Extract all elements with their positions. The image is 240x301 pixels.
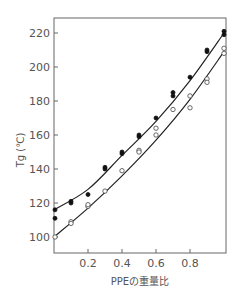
open-data-point <box>154 133 158 137</box>
open-data-point <box>171 107 175 111</box>
open-data-point <box>120 169 124 173</box>
open-data-point <box>137 150 141 154</box>
open-data-point <box>222 51 226 55</box>
filled-data-point <box>188 75 192 79</box>
y-tick-label: 120 <box>29 197 50 210</box>
x-tick-label: 0.8 <box>181 257 199 270</box>
open-data-point <box>222 46 226 50</box>
filled-data-point <box>120 150 124 154</box>
filled-data-point <box>103 165 107 169</box>
x-tick-label: 0.2 <box>79 257 97 270</box>
open-data-point <box>103 189 107 193</box>
chart-canvas: 100120140160180200220 0.20.40.60.8 Tg (℃… <box>0 0 240 301</box>
y-tick-label: 160 <box>29 129 50 142</box>
open-data-point <box>188 94 192 98</box>
filled-data-point <box>86 193 90 197</box>
open-data-point <box>86 203 90 207</box>
y-axis-label: Tg (℃) <box>15 133 26 169</box>
filled-data-point <box>154 116 158 120</box>
filled-data-point <box>171 91 175 95</box>
y-tick-label: 140 <box>29 163 50 176</box>
y-tick-label: 100 <box>29 231 50 244</box>
filled-data-point <box>222 29 226 33</box>
filled-data-point <box>205 48 209 52</box>
filled-data-point <box>69 201 73 205</box>
open-data-point <box>53 235 57 239</box>
filled-data-point <box>53 208 57 212</box>
fit-curve <box>54 33 224 210</box>
x-tick-label: 0.6 <box>147 257 165 270</box>
y-tick-label: 180 <box>29 95 50 108</box>
open-data-point <box>154 126 158 130</box>
fit-curve <box>54 52 224 237</box>
y-tick-label: 200 <box>29 61 50 74</box>
filled-data-point <box>53 216 57 220</box>
x-axis: 0.20.40.60.8 <box>79 249 199 270</box>
data-points <box>53 29 226 239</box>
x-axis-label: PPEの重量比 <box>111 275 169 287</box>
y-tick-label: 220 <box>29 27 50 40</box>
open-data-point <box>188 106 192 110</box>
open-data-point <box>205 80 209 84</box>
tg-vs-ppe-chart: 100120140160180200220 0.20.40.60.8 Tg (℃… <box>0 0 240 301</box>
x-tick-label: 0.4 <box>113 257 131 270</box>
open-data-point <box>69 221 73 225</box>
filled-data-point <box>137 133 141 137</box>
